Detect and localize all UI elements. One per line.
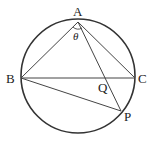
segment-ab: [21, 22, 78, 78]
angle-label-theta: θ: [73, 30, 79, 42]
geometry-diagram: A B C P Q θ: [0, 0, 151, 141]
label-p: P: [124, 109, 131, 124]
label-q: Q: [98, 80, 108, 95]
label-c: C: [138, 71, 147, 86]
segment-ac: [78, 22, 135, 78]
label-a: A: [73, 4, 83, 19]
label-b: B: [6, 71, 15, 86]
segment-ap: [78, 22, 121, 111]
